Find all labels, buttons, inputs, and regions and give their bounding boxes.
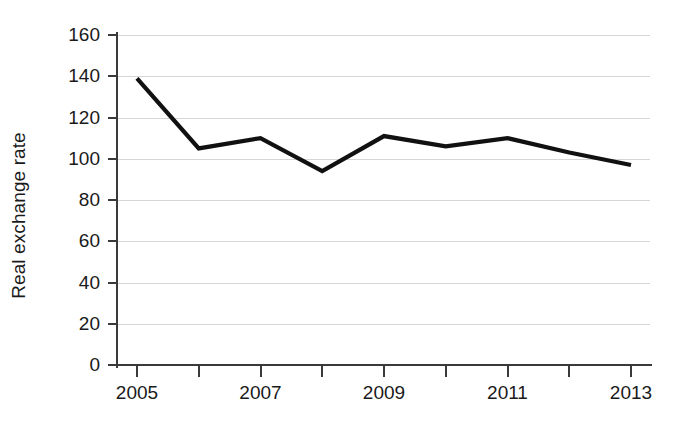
series-line-real-exchange-rate <box>137 78 631 171</box>
line-chart-figure: Real exchange rate 020406080100120140160… <box>0 0 682 431</box>
data-series-layer <box>0 0 682 431</box>
